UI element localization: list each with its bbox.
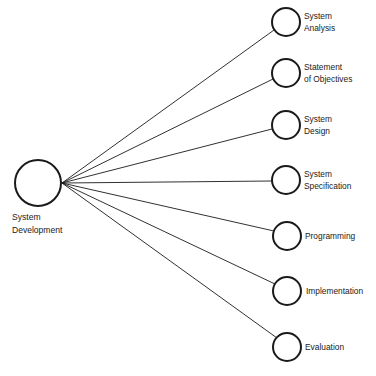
node-circle-statement-of-objectives: [272, 59, 300, 87]
node-circle-system-design: [272, 111, 300, 139]
node-label-line1: System: [304, 168, 351, 180]
node-label-implementation: Implementation: [306, 285, 363, 297]
node-label-line2: of Objectives: [304, 73, 352, 85]
hub-circle-system-development: [15, 160, 61, 206]
node-label-line1: Evaluation: [305, 341, 344, 353]
hub-label-line1: System: [12, 210, 62, 223]
hub-label-line2: Development: [12, 223, 62, 236]
spoke-system-specification: [62, 181, 272, 183]
node-circle-programming: [273, 222, 301, 250]
spoke-evaluation: [62, 183, 277, 338]
spoke-system-analysis: [62, 30, 274, 183]
node-label-line1: System: [304, 10, 335, 22]
spoke-system-design: [62, 129, 272, 183]
node-label-system-design: System Design: [304, 113, 332, 137]
hub-label: System Development: [12, 210, 62, 236]
node-label-line2: Design: [304, 125, 332, 137]
spoke-implementation: [62, 183, 275, 284]
node-circle-implementation: [273, 277, 301, 305]
node-label-statement-of-objectives: Statement of Objectives: [304, 61, 352, 85]
node-label-line2: Specification: [304, 180, 351, 192]
node-label-line1: System: [304, 113, 332, 125]
spoke-lines: [62, 30, 277, 338]
node-label-line1: Implementation: [306, 285, 363, 297]
node-circle-system-analysis: [272, 8, 300, 36]
node-label-system-specification: System Specification: [304, 168, 351, 192]
spoke-programming: [62, 183, 274, 231]
node-label-system-analysis: System Analysis: [304, 10, 335, 34]
node-label-line1: Programming: [305, 230, 355, 242]
node-label-line2: Analysis: [304, 22, 335, 34]
node-label-programming: Programming: [305, 230, 355, 242]
node-label-evaluation: Evaluation: [305, 341, 344, 353]
node-label-line1: Statement: [304, 61, 352, 73]
node-circle-system-specification: [272, 166, 300, 194]
node-circle-evaluation: [273, 333, 301, 361]
spoke-statement-of-objectives: [62, 79, 273, 183]
